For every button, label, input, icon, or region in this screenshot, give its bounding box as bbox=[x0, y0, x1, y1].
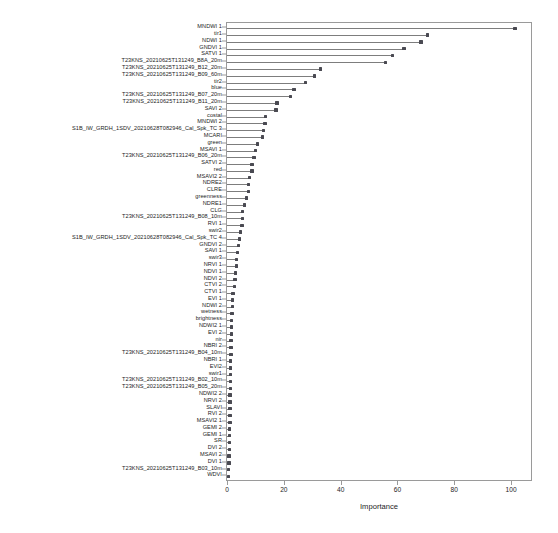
bar-stem bbox=[227, 144, 257, 145]
importance-bar bbox=[227, 286, 532, 287]
y-axis-tick bbox=[222, 360, 226, 361]
bar-value-dot bbox=[236, 251, 239, 254]
bar-value-dot bbox=[228, 400, 231, 403]
importance-bar bbox=[227, 49, 532, 50]
plot-area bbox=[226, 22, 532, 481]
y-axis-tick bbox=[222, 400, 226, 401]
bar-value-dot bbox=[250, 169, 253, 172]
y-axis-tick bbox=[222, 68, 226, 69]
importance-bar bbox=[227, 422, 532, 423]
importance-bar bbox=[227, 171, 532, 172]
bar-value-dot bbox=[229, 359, 232, 362]
bar-value-dot bbox=[235, 258, 238, 261]
bar-value-dot bbox=[231, 305, 234, 308]
importance-bar bbox=[227, 334, 532, 335]
y-axis-tick bbox=[222, 54, 226, 55]
y-axis-tick bbox=[222, 346, 226, 347]
y-axis-tick bbox=[222, 101, 226, 102]
bar-value-dot bbox=[231, 298, 234, 301]
y-axis-tick bbox=[222, 427, 226, 428]
x-axis-tick-label: 40 bbox=[337, 486, 344, 494]
y-axis-tick bbox=[222, 448, 226, 449]
importance-bar bbox=[227, 55, 532, 56]
y-axis-tick bbox=[222, 190, 226, 191]
x-axis-tick-label: 80 bbox=[451, 486, 458, 494]
importance-bar bbox=[227, 89, 532, 90]
y-axis-tick bbox=[222, 34, 226, 35]
bar-value-dot bbox=[240, 224, 243, 227]
bar-value-dot bbox=[233, 278, 236, 281]
importance-bar bbox=[227, 409, 532, 410]
bar-value-dot bbox=[230, 319, 233, 322]
y-axis-tick bbox=[222, 258, 226, 259]
importance-bar bbox=[227, 157, 532, 158]
importance-bar bbox=[227, 28, 532, 29]
bar-value-dot bbox=[228, 407, 231, 410]
importance-bar bbox=[227, 123, 532, 124]
bar-stem bbox=[227, 130, 264, 131]
bar-value-dot bbox=[229, 339, 232, 342]
y-axis-tick bbox=[222, 319, 226, 320]
bar-stem bbox=[227, 151, 256, 152]
bar-value-dot bbox=[228, 448, 231, 451]
y-axis-tick bbox=[222, 292, 226, 293]
y-axis-tick bbox=[222, 135, 226, 136]
importance-bar bbox=[227, 320, 532, 321]
importance-bar bbox=[227, 246, 532, 247]
y-axis-tick bbox=[222, 305, 226, 306]
bar-stem bbox=[227, 157, 254, 158]
bar-value-dot bbox=[239, 230, 242, 233]
x-axis-tick bbox=[397, 481, 398, 485]
importance-bar bbox=[227, 456, 532, 457]
bar-value-dot bbox=[229, 387, 232, 390]
bar-stem bbox=[227, 28, 515, 29]
bar-value-dot bbox=[245, 196, 248, 199]
y-axis-tick bbox=[222, 40, 226, 41]
importance-bar bbox=[227, 293, 532, 294]
bar-value-dot bbox=[426, 33, 429, 36]
bar-value-dot bbox=[252, 156, 255, 159]
y-axis-tick bbox=[222, 393, 226, 394]
importance-bar bbox=[227, 300, 532, 301]
bar-value-dot bbox=[227, 454, 230, 457]
y-axis-tick bbox=[222, 461, 226, 462]
importance-bar bbox=[227, 266, 532, 267]
y-axis-tick bbox=[222, 156, 226, 157]
importance-bar bbox=[227, 259, 532, 260]
importance-bar bbox=[227, 313, 532, 314]
importance-bar bbox=[227, 184, 532, 185]
bar-value-dot bbox=[289, 95, 292, 98]
y-axis-tick bbox=[222, 407, 226, 408]
bar-value-dot bbox=[228, 441, 231, 444]
bar-value-dot bbox=[238, 237, 241, 240]
bar-value-dot bbox=[228, 427, 231, 430]
bar-value-dot bbox=[229, 373, 232, 376]
bar-value-dot bbox=[229, 380, 232, 383]
bar-value-dot bbox=[254, 149, 257, 152]
bar-value-dot bbox=[228, 414, 231, 417]
bar-stem bbox=[227, 69, 320, 70]
bar-value-dot bbox=[233, 285, 236, 288]
bar-value-dot bbox=[402, 47, 405, 50]
bar-stem bbox=[227, 178, 250, 179]
importance-bar bbox=[227, 137, 532, 138]
bar-value-dot bbox=[231, 292, 234, 295]
importance-bar bbox=[227, 151, 532, 152]
y-axis-tick bbox=[222, 251, 226, 252]
y-axis-tick bbox=[222, 176, 226, 177]
bar-value-dot bbox=[230, 332, 233, 335]
y-axis-tick bbox=[222, 285, 226, 286]
y-axis-tick bbox=[222, 332, 226, 333]
importance-bar bbox=[227, 395, 532, 396]
y-axis-tick bbox=[222, 115, 226, 116]
bar-stem bbox=[227, 137, 263, 138]
bar-stem bbox=[227, 191, 249, 192]
bar-value-dot bbox=[419, 40, 422, 43]
y-axis-tick bbox=[222, 197, 226, 198]
importance-bar bbox=[227, 307, 532, 308]
importance-bar bbox=[227, 327, 532, 328]
bar-stem bbox=[227, 89, 294, 90]
y-axis-tick bbox=[222, 108, 226, 109]
importance-bar bbox=[227, 436, 532, 437]
y-axis-tick bbox=[222, 380, 226, 381]
